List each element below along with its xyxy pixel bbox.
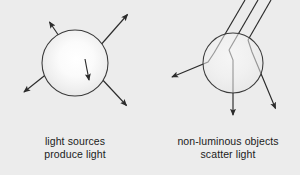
- figure-root: light sources produce light non-luminous…: [0, 0, 300, 175]
- optics-diagram: light sources produce light non-luminous…: [0, 0, 300, 175]
- caption-light-source-line1: light sources: [45, 135, 105, 147]
- caption-scatter-line2: scatter light: [201, 148, 256, 160]
- caption-light-source-line2: produce light: [44, 148, 105, 160]
- non-luminous-object: [203, 33, 263, 93]
- luminous-sphere: [42, 30, 108, 96]
- caption-scatter-line1: non-luminous objects: [177, 135, 278, 147]
